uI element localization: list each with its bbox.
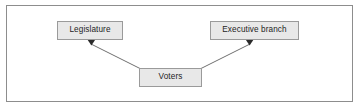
node-executive-branch-label: Executive branch: [222, 26, 286, 34]
diagram-frame: [6, 5, 353, 102]
node-legislature-label: Legislature: [69, 26, 110, 34]
node-legislature: Legislature: [57, 21, 123, 40]
diagram-screenshot: Legislature Executive branch Voters: [0, 0, 362, 109]
node-voters-label: Voters: [159, 73, 183, 81]
node-voters: Voters: [139, 68, 202, 87]
node-executive-branch: Executive branch: [210, 21, 299, 40]
